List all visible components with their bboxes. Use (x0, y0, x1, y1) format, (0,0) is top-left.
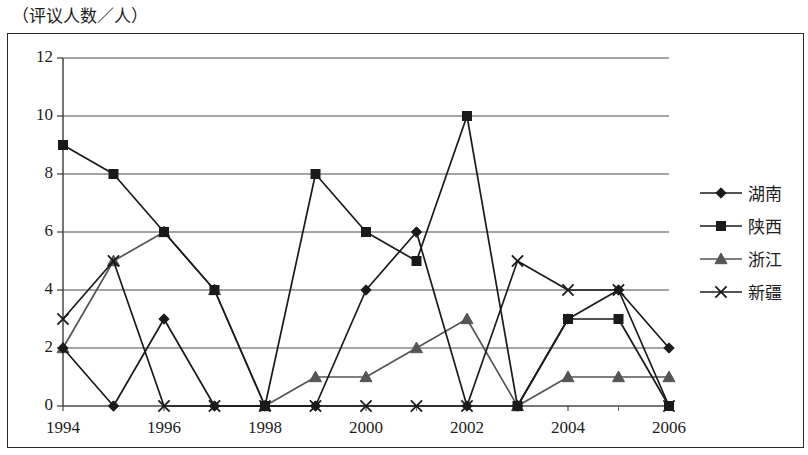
data-point-triangle (411, 342, 423, 353)
x-tick-label: 2002 (433, 418, 501, 438)
x-tick-label: 1998 (231, 418, 299, 438)
legend-marker-triangle-icon (698, 248, 744, 270)
series-line (63, 261, 669, 406)
legend-label: 新疆 (748, 279, 782, 304)
data-point-diamond (716, 187, 726, 197)
chart-page: （评议人数／人） 024681012 199419961998200020022… (0, 0, 808, 455)
data-point-square (717, 221, 726, 230)
y-tick-label: 4 (11, 279, 53, 299)
y-tick-label: 0 (11, 395, 53, 415)
legend-item-cross[interactable]: 新疆 (698, 275, 782, 308)
data-point-square (614, 315, 623, 324)
x-tick-label: 2006 (635, 418, 703, 438)
y-tick-label: 12 (11, 47, 53, 67)
x-tick-label: 2000 (332, 418, 400, 438)
data-point-square (59, 141, 68, 150)
data-point-square (210, 286, 219, 295)
legend-label: 湖南 (748, 180, 782, 205)
y-tick-label: 10 (11, 105, 53, 125)
data-point-square (665, 402, 674, 411)
data-point-diamond (159, 314, 169, 324)
data-point-square (160, 228, 169, 237)
chart-frame: 024681012 1994199619982000200220042006 湖… (7, 33, 804, 448)
data-point-triangle (461, 313, 473, 324)
legend-item-square[interactable]: 陕西 (698, 209, 782, 242)
data-point-square (311, 170, 320, 179)
series-3 (57, 255, 674, 411)
x-tick-label: 1994 (29, 418, 97, 438)
y-tick-label: 6 (11, 221, 53, 241)
legend-label: 陕西 (748, 213, 782, 238)
legend-marker-square-icon (698, 215, 744, 237)
line-chart-plot (8, 34, 805, 449)
legend-item-diamond[interactable]: 湖南 (698, 176, 782, 209)
data-point-square (513, 402, 522, 411)
legend-item-triangle[interactable]: 浙江 (698, 242, 782, 275)
chart-legend: 湖南陕西浙江新疆 (698, 176, 782, 308)
y-tick-label: 2 (11, 337, 53, 357)
data-point-square (463, 112, 472, 121)
data-point-square (109, 170, 118, 179)
series-line (63, 116, 669, 406)
data-point-square (564, 315, 573, 324)
data-point-cross (512, 255, 523, 266)
data-point-square (261, 402, 270, 411)
y-tick-label: 8 (11, 163, 53, 183)
x-tick-label: 1996 (130, 418, 198, 438)
legend-marker-cross-icon (698, 281, 744, 303)
x-tick-label: 2004 (534, 418, 602, 438)
legend-marker-diamond-icon (698, 182, 744, 204)
data-point-square (412, 257, 421, 266)
y-axis-unit-title: （评议人数／人） (12, 2, 148, 27)
data-point-square (362, 228, 371, 237)
legend-label: 浙江 (748, 246, 782, 271)
